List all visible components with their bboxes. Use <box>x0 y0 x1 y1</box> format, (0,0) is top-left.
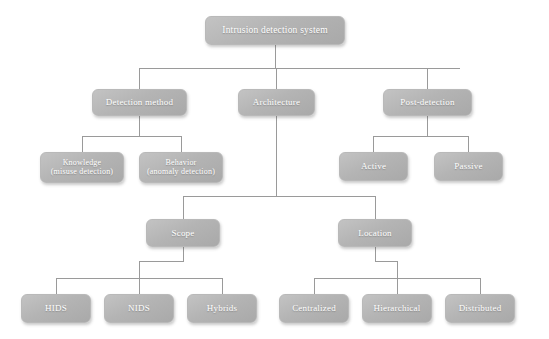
node-knowledge-misuse-detection[interactable]: Knowledge (misuse detection) <box>40 152 124 183</box>
node-location[interactable]: Location <box>338 219 412 247</box>
node-label: Intrusion detection system <box>218 25 331 36</box>
node-hierarchical[interactable]: Hierarchical <box>362 294 432 323</box>
node-label: Location <box>354 228 396 238</box>
node-nids[interactable]: NIDS <box>104 294 174 323</box>
diagram-canvas: Intrusion detection system Detection met… <box>0 0 549 339</box>
node-label: Passive <box>450 161 486 171</box>
node-hids[interactable]: HIDS <box>21 294 91 323</box>
node-label: HIDS <box>41 303 71 313</box>
node-distributed[interactable]: Distributed <box>445 294 515 323</box>
node-label: Hybrids <box>203 303 241 313</box>
node-label: Architecture <box>249 97 304 107</box>
node-label: Behavior (anomaly detection) <box>143 159 219 177</box>
node-label: Active <box>357 161 390 171</box>
node-architecture[interactable]: Architecture <box>238 89 315 116</box>
node-label: Centralized <box>288 303 340 313</box>
edge-location-stem <box>375 247 397 278</box>
node-post-detection[interactable]: Post-detection <box>383 89 472 116</box>
node-label: Distributed <box>455 303 506 313</box>
node-label: Hierarchical <box>370 303 425 313</box>
node-passive[interactable]: Passive <box>434 152 503 181</box>
node-detection-method[interactable]: Detection method <box>92 89 187 116</box>
node-behavior-anomaly-detection[interactable]: Behavior (anomaly detection) <box>139 152 223 183</box>
node-hybrids[interactable]: Hybrids <box>187 294 257 323</box>
node-active[interactable]: Active <box>339 152 408 181</box>
node-label: Knowledge (misuse detection) <box>47 159 117 177</box>
node-label: Scope <box>168 228 199 238</box>
node-centralized[interactable]: Centralized <box>279 294 349 323</box>
node-intrusion-detection-system[interactable]: Intrusion detection system <box>205 16 345 45</box>
edge-scope-stem <box>139 247 183 278</box>
node-label: NIDS <box>124 303 154 313</box>
node-scope[interactable]: Scope <box>146 219 220 247</box>
node-label: Detection method <box>102 97 177 107</box>
node-label: Post-detection <box>396 97 458 107</box>
